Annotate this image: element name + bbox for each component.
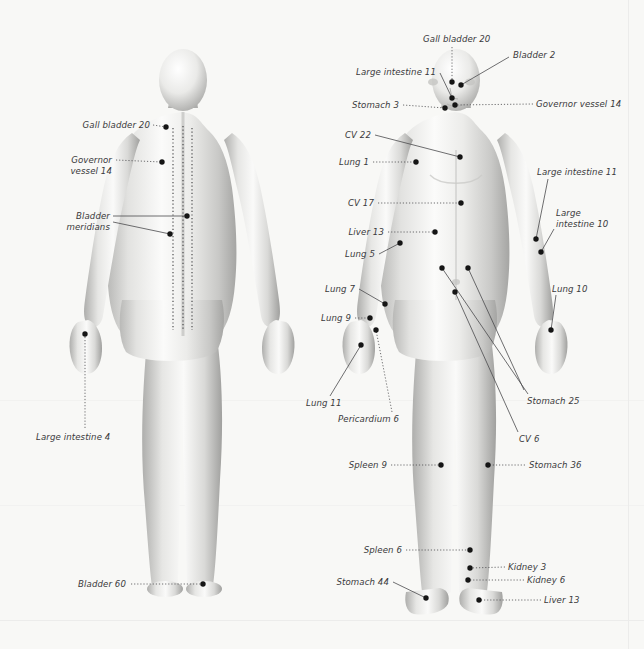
point-label-bl60-back: Bladder 60 bbox=[52, 579, 126, 590]
left-eye bbox=[428, 78, 438, 85]
acupoint-st44[interactable] bbox=[423, 595, 428, 600]
acupoint-li10[interactable] bbox=[538, 249, 543, 254]
point-label-cv22: CV 22 bbox=[333, 130, 371, 141]
point-label-spleen6: Spleen 6 bbox=[348, 545, 402, 556]
acupoint-lung11[interactable] bbox=[358, 342, 363, 347]
point-label-lung9: Lung 9 bbox=[307, 313, 351, 324]
point-label-lung10: Lung 10 bbox=[552, 284, 604, 295]
point-label-peri6: Pericardium 6 bbox=[338, 414, 416, 425]
acupoint-lung10[interactable] bbox=[548, 327, 553, 332]
acupoint-lung5[interactable] bbox=[397, 240, 402, 245]
acupoint-bl60-back[interactable] bbox=[200, 581, 205, 586]
posterior-head bbox=[159, 49, 207, 111]
point-label-st3: Stomach 3 bbox=[337, 100, 399, 111]
anterior-legs bbox=[412, 330, 496, 597]
acupoint-st36[interactable] bbox=[485, 462, 490, 467]
posterior-left-hand bbox=[69, 320, 102, 374]
point-label-kidney6: Kidney 6 bbox=[527, 575, 585, 586]
point-label-liver13-t: Liver 13 bbox=[330, 227, 384, 238]
point-label-kidney3: Kidney 3 bbox=[508, 562, 566, 573]
acupoint-liver13-t[interactable] bbox=[432, 229, 437, 234]
acupoint-cv6[interactable] bbox=[452, 289, 457, 294]
point-label-st44: Stomach 44 bbox=[317, 577, 389, 588]
acupoint-kidney3[interactable] bbox=[467, 565, 472, 570]
acupoint-cv17[interactable] bbox=[458, 200, 463, 205]
point-label-st36: Stomach 36 bbox=[529, 460, 601, 471]
acupoint-bl-mer-2[interactable] bbox=[167, 231, 172, 236]
point-label-st25: Stomach 25 bbox=[527, 396, 599, 407]
point-label-bl-mer-1: Bladder meridians bbox=[36, 211, 110, 232]
acupoint-lung1[interactable] bbox=[413, 159, 418, 164]
acupoint-st25b[interactable] bbox=[465, 265, 470, 270]
acupoint-st3[interactable] bbox=[442, 105, 447, 110]
acupuncture-chart: Gall bladder 20Governor vessel 14Bladder… bbox=[0, 0, 644, 649]
acupoint-liver13-f[interactable] bbox=[476, 597, 481, 602]
point-label-li11-arm: Large intestine 11 bbox=[537, 167, 643, 178]
acupoint-kidney6[interactable] bbox=[465, 577, 470, 582]
acupoint-bl-mer-1[interactable] bbox=[184, 213, 189, 218]
point-label-lung1: Lung 1 bbox=[325, 157, 369, 168]
acupoint-spleen6[interactable] bbox=[467, 547, 472, 552]
point-label-gv14-front: Governor vessel 14 bbox=[536, 99, 640, 110]
posterior-hips bbox=[120, 300, 224, 361]
acupoint-bl2[interactable] bbox=[458, 82, 463, 87]
posterior-left-foot bbox=[147, 581, 183, 597]
acupoint-gv14-back[interactable] bbox=[159, 159, 164, 164]
posterior-legs bbox=[142, 330, 222, 589]
acupoint-gv14-front[interactable] bbox=[452, 102, 457, 107]
point-label-li11-head: Large intestine 11 bbox=[330, 67, 436, 78]
point-label-li4-back: Large intestine 4 bbox=[36, 432, 146, 443]
acupoint-lung9[interactable] bbox=[367, 315, 372, 320]
point-label-gb20-front: Gall bladder 20 bbox=[423, 34, 519, 45]
figures-artwork bbox=[0, 0, 644, 649]
point-label-li10: Large intestine 10 bbox=[556, 208, 618, 229]
leader-line-st3 bbox=[403, 105, 445, 108]
acupoint-gb20-back[interactable] bbox=[163, 124, 168, 129]
posterior-body bbox=[69, 49, 294, 597]
acupoint-st25[interactable] bbox=[439, 265, 444, 270]
leader-line-li11-arm bbox=[536, 179, 548, 239]
point-label-bl2: Bladder 2 bbox=[513, 50, 583, 61]
acupoint-cv22[interactable] bbox=[457, 154, 462, 159]
acupoint-li11-head[interactable] bbox=[449, 95, 454, 100]
acupoint-peri6[interactable] bbox=[373, 327, 378, 332]
anterior-left-hand bbox=[342, 320, 375, 374]
leader-line-peri6 bbox=[376, 330, 392, 412]
point-label-liver13-f: Liver 13 bbox=[544, 595, 598, 606]
point-label-gv14-back: Governor vessel 14 bbox=[36, 155, 112, 176]
acupoint-lung7[interactable] bbox=[382, 301, 387, 306]
posterior-right-hand bbox=[262, 320, 295, 374]
point-label-spleen9: Spleen 9 bbox=[333, 460, 387, 471]
point-label-lung11: Lung 11 bbox=[306, 398, 354, 409]
point-label-lung7: Lung 7 bbox=[311, 284, 355, 295]
acupoint-spleen9[interactable] bbox=[438, 462, 443, 467]
point-label-cv17: CV 17 bbox=[336, 198, 374, 209]
acupoint-gb20-front[interactable] bbox=[449, 79, 454, 84]
point-label-cv6: CV 6 bbox=[519, 434, 553, 445]
acupoint-li4-back[interactable] bbox=[82, 331, 87, 336]
anterior-hips bbox=[393, 300, 497, 361]
point-label-lung5: Lung 5 bbox=[331, 249, 375, 260]
acupoint-li11-arm[interactable] bbox=[533, 236, 538, 241]
anterior-left-foot bbox=[405, 588, 448, 615]
point-label-gb20-back: Gall bladder 20 bbox=[40, 120, 150, 131]
